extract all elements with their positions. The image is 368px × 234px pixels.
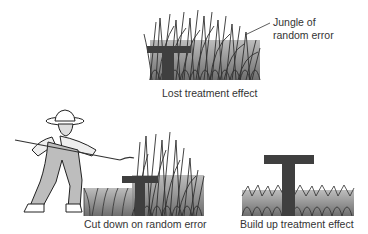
caption-cut-down-random-error: Cut down on random error (84, 219, 207, 230)
grass-cut-left (84, 188, 136, 216)
grass-short-right (242, 185, 354, 216)
caption-lost-treatment-effect: Lost treatment effect (162, 88, 258, 99)
caption-build-up-treatment-effect: Build up treatment effect (240, 219, 354, 230)
rake-head (120, 157, 134, 160)
callout-line (245, 23, 270, 35)
callout-label-line1: Jungle of (273, 17, 316, 28)
callout-label-line2: random error (273, 30, 334, 41)
jungle-grass-top (144, 10, 260, 80)
